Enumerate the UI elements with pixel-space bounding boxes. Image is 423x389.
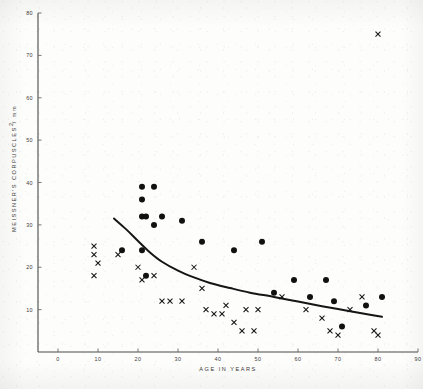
data-point-cross bbox=[328, 328, 333, 333]
data-point-circle bbox=[363, 302, 369, 308]
data-point-cross bbox=[360, 294, 365, 299]
x-axis-ticks: 0102030405060708090 bbox=[56, 349, 421, 363]
data-point-circle bbox=[199, 239, 205, 245]
circle-marker-series bbox=[119, 184, 385, 330]
x-tick-label: 30 bbox=[175, 356, 182, 362]
data-point-circle bbox=[323, 277, 329, 283]
data-point-circle bbox=[271, 290, 277, 296]
data-point-cross bbox=[224, 303, 229, 308]
data-point-circle bbox=[159, 213, 165, 219]
y-axis-title-exponent: 2 bbox=[8, 121, 14, 126]
y-tick-label: 50 bbox=[26, 137, 33, 143]
data-point-cross bbox=[200, 286, 205, 291]
scatter-plot-svg: 1020304050607080 0102030405060708090 AGE… bbox=[0, 0, 423, 389]
y-tick-label: 10 bbox=[26, 307, 33, 313]
data-point-cross bbox=[152, 273, 157, 278]
cross-marker-series bbox=[92, 32, 381, 338]
data-point-cross bbox=[96, 261, 101, 266]
data-point-circle bbox=[139, 196, 145, 202]
y-tick-label: 70 bbox=[26, 52, 33, 58]
data-point-circle bbox=[379, 294, 385, 300]
x-tick-label: 20 bbox=[135, 356, 142, 362]
data-point-cross bbox=[160, 299, 165, 304]
y-tick-label: 40 bbox=[26, 180, 33, 186]
fitted-trend-line bbox=[114, 219, 382, 317]
data-point-circle bbox=[291, 277, 297, 283]
data-point-cross bbox=[220, 311, 225, 316]
data-point-circle bbox=[331, 298, 337, 304]
data-point-cross bbox=[92, 273, 97, 278]
y-axis-ticks: 1020304050607080 bbox=[26, 10, 41, 313]
x-tick-label: 0 bbox=[56, 356, 59, 362]
data-point-cross bbox=[180, 299, 185, 304]
data-point-circle bbox=[143, 213, 149, 219]
x-tick-label: 60 bbox=[295, 356, 302, 362]
data-point-cross bbox=[136, 265, 141, 270]
data-point-cross bbox=[168, 299, 173, 304]
data-point-cross bbox=[336, 333, 341, 338]
data-point-circle bbox=[143, 273, 149, 279]
data-point-cross bbox=[244, 307, 249, 312]
x-tick-label: 10 bbox=[95, 356, 102, 362]
data-point-cross bbox=[376, 32, 381, 37]
x-tick-label: 80 bbox=[375, 356, 382, 362]
data-point-cross bbox=[256, 307, 261, 312]
data-point-cross bbox=[212, 311, 217, 316]
data-point-circle bbox=[139, 184, 145, 190]
data-point-circle bbox=[151, 184, 157, 190]
data-point-cross bbox=[240, 328, 245, 333]
data-point-circle bbox=[151, 222, 157, 228]
y-tick-label: 80 bbox=[26, 10, 33, 16]
x-tick-label: 40 bbox=[215, 356, 222, 362]
data-point-cross bbox=[252, 328, 257, 333]
data-point-circle bbox=[339, 324, 345, 330]
x-tick-label: 90 bbox=[415, 356, 422, 362]
y-tick-label: 60 bbox=[26, 95, 33, 101]
data-point-cross bbox=[140, 277, 145, 282]
data-point-circle bbox=[231, 247, 237, 253]
data-point-circle bbox=[307, 294, 313, 300]
x-axis-title: AGE IN YEARS bbox=[199, 366, 256, 372]
data-point-cross bbox=[304, 307, 309, 312]
data-point-cross bbox=[192, 265, 197, 270]
data-point-circle bbox=[119, 247, 125, 253]
x-tick-label: 70 bbox=[335, 356, 342, 362]
axes-group bbox=[38, 13, 418, 352]
figure-panel: 1020304050607080 0102030405060708090 AGE… bbox=[0, 0, 423, 389]
y-tick-label: 20 bbox=[26, 264, 33, 270]
data-point-cross bbox=[320, 316, 325, 321]
data-point-cross bbox=[92, 244, 97, 249]
data-point-circle bbox=[259, 239, 265, 245]
x-tick-label: 50 bbox=[255, 356, 262, 362]
data-point-cross bbox=[204, 307, 209, 312]
y-axis-title-group: MEISSNER'S CORPUSCLES / mm 2 bbox=[8, 105, 18, 232]
data-point-cross bbox=[232, 320, 237, 325]
data-point-cross bbox=[376, 333, 381, 338]
y-tick-label: 30 bbox=[26, 222, 33, 228]
data-point-cross bbox=[92, 252, 97, 257]
data-point-cross bbox=[116, 252, 121, 257]
data-point-circle bbox=[179, 218, 185, 224]
